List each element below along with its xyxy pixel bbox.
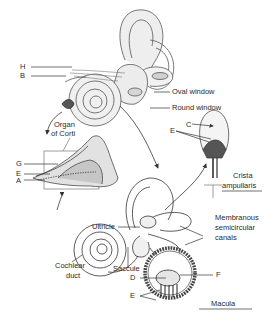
label-cochlear-line1: Cochlear xyxy=(55,262,85,270)
label-saccule: Saccule xyxy=(113,265,140,273)
diagram-drawing xyxy=(0,0,279,323)
macula xyxy=(145,248,195,298)
label-f: F xyxy=(216,271,221,279)
label-crista-line1: Crista xyxy=(233,172,253,180)
label-oval-window: Oval window xyxy=(172,88,215,96)
label-organ-of-corti-line2: of Corti xyxy=(51,130,75,138)
label-b: B xyxy=(20,72,25,80)
label-e-crista: E xyxy=(170,127,175,135)
label-membranous-line1: Membranous xyxy=(215,214,259,222)
inner-ear-diagram: H B Oval window Round window Organ of Co… xyxy=(0,0,279,323)
label-e-macula: E xyxy=(130,292,135,300)
label-cochlear-line2: duct xyxy=(66,272,80,280)
bony-labyrinth xyxy=(62,10,174,126)
label-c: C xyxy=(186,121,191,129)
label-membranous-line3: canals xyxy=(215,234,237,242)
label-crista-line2: ampullaris xyxy=(222,182,256,190)
label-g: G xyxy=(16,160,22,168)
label-d: D xyxy=(130,274,135,282)
label-utricle: Ultricle xyxy=(92,223,115,231)
label-membranous-line2: semicircular xyxy=(215,224,255,232)
label-macula: Macula xyxy=(211,300,235,308)
label-a: A xyxy=(16,177,21,185)
organ-of-corti xyxy=(33,136,118,189)
label-h: H xyxy=(20,63,25,71)
label-round-window: Round window xyxy=(172,104,221,112)
label-organ-of-corti-line1: Organ xyxy=(54,121,75,129)
